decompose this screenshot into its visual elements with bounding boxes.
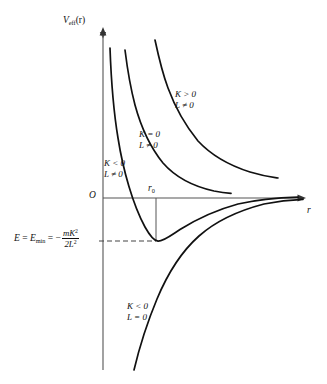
r0-label: r0 (148, 183, 155, 194)
curve-k-positive-l-nonzero (155, 40, 278, 178)
y-axis-label: Veff(r) (63, 15, 85, 26)
x-axis-label: r (307, 205, 311, 216)
denominator-symbols: 2L (64, 239, 73, 249)
annotation-line-1: K < 0 (127, 301, 148, 312)
fraction-denominator: 2L2 (62, 239, 79, 249)
x-axis-label-symbol: r (307, 205, 311, 215)
annotation-line-2: L ≠ 0 (175, 100, 196, 111)
annotation-line-1: K < 0 (104, 158, 125, 169)
annotation-line-1: K > 0 (175, 89, 196, 100)
y-axis-label-subscript: eff (69, 19, 76, 26)
effective-potential-figure: Veff(r) r O r0 K > 0 L ≠ 0 K = 0 L ≠ 0 K… (0, 0, 327, 384)
minus-sign: − (56, 233, 61, 243)
annotation-line-1: K = 0 (139, 129, 160, 140)
origin-label: O (89, 190, 96, 201)
annotation-k-negative-l-nonzero: K < 0 L ≠ 0 (104, 158, 125, 179)
energy-fraction: mK22L2 (62, 228, 79, 249)
numerator-exponent: 2 (75, 228, 78, 234)
y-axis-arrowhead-icon (100, 27, 107, 36)
annotation-line-2: L ≠ 0 (104, 169, 125, 180)
annotation-line-2: L ≠ 0 (139, 140, 160, 151)
numerator-symbols: mK (63, 227, 75, 237)
origin-label-symbol: O (89, 190, 96, 200)
curve-k-zero-l-nonzero (125, 50, 231, 193)
fraction-numerator: mK2 (62, 228, 79, 239)
r0-label-subscript: 0 (152, 187, 155, 194)
annotation-k-negative-l-zero: K < 0 L = 0 (127, 301, 148, 322)
annotation-line-2: L = 0 (127, 312, 148, 323)
y-axis-label-argument: (r) (76, 15, 86, 25)
annotation-k-zero-l-nonzero: K = 0 L ≠ 0 (139, 129, 160, 150)
energy-minimum-equation: E = Emin = −mK22L2 (14, 228, 80, 249)
plot-canvas (0, 0, 327, 384)
x-axis-arrowhead-icon (298, 195, 307, 202)
denominator-exponent: 2 (74, 239, 77, 245)
annotation-k-positive-l-nonzero: K > 0 L ≠ 0 (175, 89, 196, 110)
curve-k-negative-l-zero (134, 199, 303, 370)
